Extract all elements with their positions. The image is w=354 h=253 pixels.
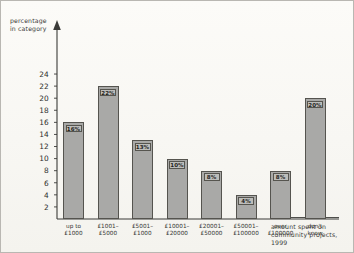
x-tick-label: £50001– £100000 [230,223,262,238]
bar-value-label: 20% [307,101,323,109]
y-tick-label: 2 [31,203,49,212]
x-tick-label: don't know [299,223,331,238]
bar [132,140,153,219]
y-axis-arrow [53,20,61,30]
bar [98,86,119,219]
y-tick-label: 8 [31,166,49,175]
bar [63,122,84,219]
bar-value-label: 22% [100,89,116,97]
y-tick-label: 6 [31,179,49,188]
x-tick-label: £5001– £1000 [127,223,159,238]
x-tick-label: £1001– £5000 [92,223,124,238]
chart-figure: percentage in category amount spent on c… [0,0,354,253]
y-tick-label: 24 [31,70,49,79]
y-tick-label: 16 [31,118,49,127]
x-tick-label: £20001– £50000 [196,223,228,238]
bar-value-label: 8% [273,173,289,181]
y-tick-label: 12 [31,142,49,151]
bar [305,98,326,219]
x-tick-label: over £100000 [265,223,297,238]
y-tick-label: 22 [31,82,49,91]
bar-value-label: 16% [66,125,82,133]
x-tick-label: £10001– £20000 [161,223,193,238]
x-tick-label: up to £1000 [58,223,90,238]
y-tick-label: 18 [31,106,49,115]
y-tick-label: 14 [31,130,49,139]
y-axis-title: percentage in category [10,17,47,33]
y-tick-label: 10 [31,154,49,163]
bar-value-label: 4% [238,197,254,205]
bar-value-label: 10% [169,161,185,169]
y-tick-label: 20 [31,94,49,103]
y-tick-label: 4 [31,191,49,200]
bar-value-label: 8% [204,173,220,181]
bar-value-label: 13% [135,143,151,151]
